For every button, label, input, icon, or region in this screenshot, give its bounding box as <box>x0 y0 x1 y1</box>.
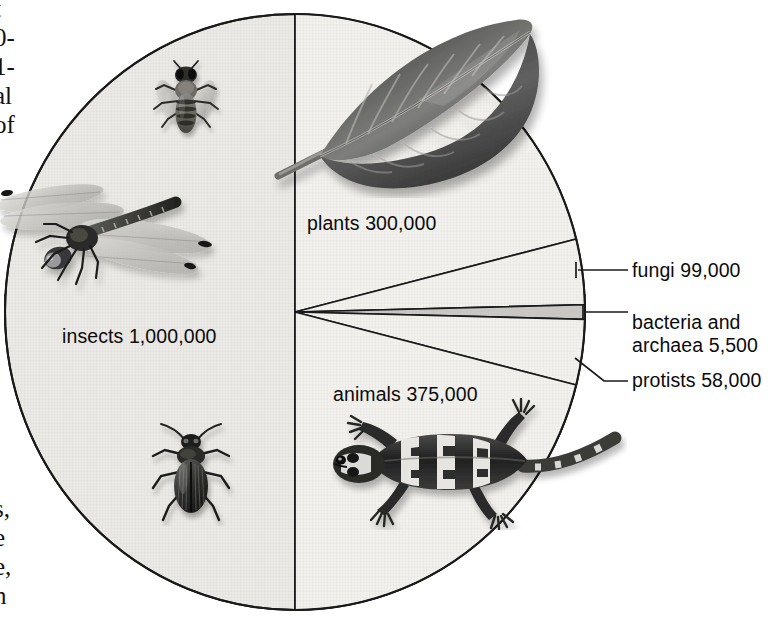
dragonfly-photo <box>0 170 222 310</box>
slice-label-animals: animals 375,000 <box>333 383 478 406</box>
protists-leader-line <box>575 358 628 381</box>
beetle-photo <box>145 420 237 526</box>
gecko-photo <box>327 398 627 530</box>
callout-label-fungi: fungi 99,000 <box>632 259 741 282</box>
callout-label-bacteria-line2: archaea 5,500 <box>632 334 758 357</box>
bee-photo <box>140 55 232 147</box>
slice-label-plants: plants 300,000 <box>307 212 436 235</box>
leaf-photo <box>268 8 563 198</box>
callout-label-bacteria-archaea: bacteria and archaea 5,500 <box>632 311 758 357</box>
figure-canvas: t 0- 1- al of s, e e, n <box>0 0 779 625</box>
slice-label-insects: insects 1,000,000 <box>62 325 217 348</box>
callout-label-protists: protists 58,000 <box>632 369 761 392</box>
callout-label-bacteria-line1: bacteria and <box>632 311 758 334</box>
